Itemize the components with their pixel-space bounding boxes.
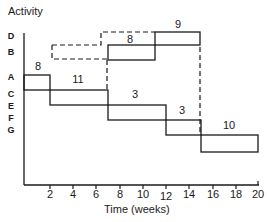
activity-bar-b <box>108 45 155 60</box>
activity-bar-d <box>155 32 200 45</box>
duration-label-d: 9 <box>168 18 188 30</box>
activity-bar-g <box>201 135 258 152</box>
x-tick-6: 6 <box>86 188 106 200</box>
duration-label-c: 11 <box>68 73 88 85</box>
activity-bar-a <box>24 75 50 90</box>
x-tick-18: 18 <box>226 188 246 200</box>
x-tick-16: 16 <box>203 188 223 200</box>
x-tick-20: 20 <box>248 188 267 200</box>
x-tick-2: 2 <box>40 188 60 200</box>
x-tick-10: 10 <box>133 188 153 200</box>
duration-label-b: 8 <box>120 33 140 45</box>
duration-label-f: 3 <box>172 104 192 116</box>
duration-label-a: 8 <box>28 60 48 72</box>
activity-bar-c <box>50 90 108 105</box>
x-tick-4: 4 <box>63 188 83 200</box>
float-line-b-lower <box>52 45 107 59</box>
duration-label-e: 3 <box>125 88 145 100</box>
x-tick-12: 12 <box>156 190 176 202</box>
x-tick-14: 14 <box>179 188 199 200</box>
x-axis-title: Time (weeks) <box>104 203 170 215</box>
activity-bar-e <box>108 105 166 120</box>
x-tick-8: 8 <box>110 188 130 200</box>
activity-bar-f <box>166 120 201 135</box>
duration-label-g: 10 <box>219 119 239 131</box>
